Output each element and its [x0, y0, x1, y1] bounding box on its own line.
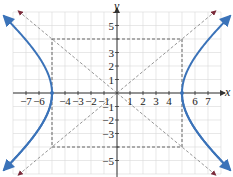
- svg-text:−4: −4: [59, 95, 71, 107]
- svg-text:−3: −3: [72, 95, 84, 107]
- svg-text:3: 3: [109, 47, 115, 59]
- x-axis-label: x: [224, 85, 231, 99]
- svg-text:−2: −2: [102, 114, 114, 126]
- svg-text:−3: −3: [102, 128, 114, 140]
- svg-text:1: 1: [109, 74, 115, 86]
- svg-text:7: 7: [205, 95, 211, 107]
- svg-text:−1: −1: [102, 101, 114, 113]
- svg-text:6: 6: [192, 95, 198, 107]
- svg-text:2: 2: [140, 95, 146, 107]
- y-axis-label: y: [113, 0, 120, 13]
- svg-text:−2: −2: [85, 95, 97, 107]
- hyperbola-chart: −7−6−4−3−2−11234675321−1−2−3−5 x y: [0, 0, 233, 177]
- axes: [13, 8, 225, 177]
- svg-text:−5: −5: [102, 155, 114, 167]
- svg-text:1: 1: [127, 95, 133, 107]
- svg-text:−6: −6: [33, 95, 45, 107]
- svg-text:5: 5: [109, 20, 115, 32]
- svg-text:2: 2: [109, 60, 115, 72]
- svg-text:4: 4: [166, 95, 172, 107]
- svg-text:3: 3: [153, 95, 159, 107]
- svg-text:−7: −7: [20, 95, 32, 107]
